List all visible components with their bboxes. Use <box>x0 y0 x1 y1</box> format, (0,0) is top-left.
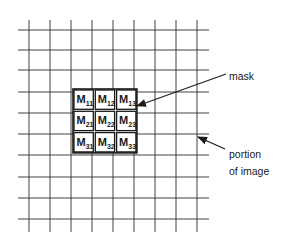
mask-diagram: M11M12M13M21M22M23M31M32M33 mask portion… <box>0 0 284 242</box>
mask-3x3: M11M12M13M21M22M23M31M32M33 <box>73 89 137 153</box>
portion-arrow-icon <box>198 137 225 149</box>
portion-label-line1: portion <box>229 148 261 160</box>
portion-label-line2: of image <box>229 165 269 177</box>
mask-label: mask <box>229 70 255 82</box>
mask-arrow-icon <box>137 74 226 106</box>
annotation-arrows <box>137 74 226 149</box>
